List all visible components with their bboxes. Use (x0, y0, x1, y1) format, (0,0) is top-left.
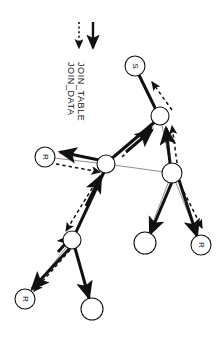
join-table-arrow (60, 152, 99, 160)
node-leaf-bottom-center[interactable] (81, 298, 103, 320)
node-circle[interactable] (97, 155, 115, 173)
diagram-canvas: S R R (0, 0, 222, 341)
legend-label-join-data: JOIN_DATA (66, 62, 76, 116)
node-leaf-center-right[interactable] (134, 232, 156, 254)
join-data-arrow (172, 126, 177, 163)
node-junction-4[interactable] (63, 231, 81, 249)
node-junction-1[interactable] (151, 107, 169, 125)
node-label: R (197, 242, 206, 248)
join-data-arrow (56, 164, 100, 172)
join-table-arrow (179, 180, 197, 236)
node-s[interactable]: S (125, 56, 145, 76)
node-junction-3[interactable] (162, 163, 182, 183)
join-table-arrow (75, 248, 89, 298)
node-label: R (21, 296, 30, 302)
node-r-left[interactable]: R (35, 147, 55, 167)
node-junction-2[interactable] (97, 155, 115, 173)
join-data-arrow (66, 177, 99, 231)
node-r-bottom-right[interactable]: R (191, 235, 211, 255)
node-label: S (131, 63, 140, 68)
node-circle[interactable] (134, 232, 156, 254)
node-circle[interactable] (162, 163, 182, 183)
join-data-arrow (34, 250, 70, 291)
node-circle[interactable] (151, 107, 169, 125)
node-circle[interactable] (81, 298, 103, 320)
join-table-arrow (86, 176, 101, 206)
tree-edges (25, 66, 201, 309)
node-label: R (41, 154, 50, 160)
tree-diagram-svg: S R R (0, 0, 222, 341)
node-r-bottom-left[interactable]: R (15, 289, 35, 309)
join-table-arrow (166, 128, 170, 163)
node-circle[interactable] (63, 231, 81, 249)
legend-arrows (79, 22, 93, 48)
legend-label-join-table: JOIN_TABLE (76, 62, 86, 121)
join-table-arrow (32, 248, 70, 289)
join-table-arrow (110, 120, 157, 160)
join-table-arrow (150, 182, 172, 234)
join-table-arrow (126, 130, 152, 152)
